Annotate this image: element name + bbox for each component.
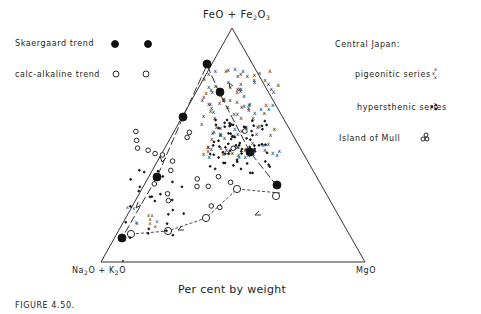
svg-text:x: x (222, 96, 226, 103)
svg-text:x: x (211, 88, 215, 95)
svg-text:x: x (132, 205, 135, 211)
svg-text:x: x (209, 107, 213, 114)
svg-text:x: x (156, 218, 159, 224)
svg-text:x: x (228, 96, 232, 103)
svg-text:x: x (255, 130, 259, 137)
svg-text:x: x (213, 82, 217, 89)
svg-text:x: x (270, 85, 274, 92)
svg-text:x: x (253, 109, 257, 116)
legend-central-japan: Central Japan: (335, 40, 400, 49)
svg-text:x: x (202, 112, 206, 119)
svg-text:x: x (239, 114, 243, 121)
sub: 3 (266, 14, 270, 21)
svg-text:x: x (434, 66, 437, 72)
t: O + K (89, 266, 115, 275)
svg-text:x: x (248, 100, 252, 107)
svg-text:x: x (276, 81, 280, 88)
svg-text:x: x (266, 140, 270, 147)
svg-text:x: x (126, 204, 129, 210)
svg-text:x: x (253, 78, 257, 85)
svg-text:x: x (259, 105, 263, 112)
svg-text:x: x (266, 80, 270, 87)
legend-pigeonitic: pigeonitic series (355, 70, 431, 79)
svg-text:x: x (203, 75, 207, 82)
svg-text:x: x (211, 129, 215, 136)
svg-text:x: x (242, 102, 246, 109)
svg-text:x: x (434, 74, 437, 80)
figure-caption: FIGURE 4.50. (15, 301, 75, 310)
svg-text:x: x (264, 101, 268, 108)
t: O (119, 266, 126, 275)
svg-text:x: x (202, 150, 206, 157)
svg-text:x: x (213, 67, 217, 74)
svg-text:x: x (258, 69, 262, 76)
x-axis-label: Per cent by weight (178, 283, 286, 296)
svg-text:x: x (232, 110, 236, 117)
svg-text:x: x (200, 120, 204, 127)
svg-text:x: x (226, 103, 230, 110)
svg-text:x: x (208, 100, 212, 107)
svg-text:x: x (223, 134, 227, 141)
apex-top-text2: O (258, 9, 266, 20)
svg-text:x: x (257, 122, 261, 129)
svg-text:x: x (247, 151, 251, 158)
svg-text:x: x (207, 83, 211, 90)
svg-text:x: x (201, 96, 205, 103)
svg-text:x: x (247, 106, 251, 113)
svg-text:x: x (268, 67, 272, 74)
apex-left-label: Na2O + K2O (72, 266, 126, 276)
apex-top-text: FeO + Fe (203, 9, 253, 20)
svg-text:x: x (204, 89, 208, 96)
legend-skaergaard: Skaergaard trend (15, 39, 94, 48)
svg-text:x: x (239, 85, 243, 92)
legend-calc-alkaline: calc-alkaline trend (15, 70, 100, 79)
svg-text:x: x (273, 125, 277, 132)
svg-text:x: x (235, 110, 239, 117)
svg-text:x: x (229, 83, 233, 90)
svg-text:x: x (207, 70, 211, 77)
legend-mull: Island of Mull (339, 134, 400, 143)
svg-text:x: x (219, 130, 223, 137)
svg-text:x: x (269, 131, 273, 138)
svg-text:x: x (235, 98, 239, 105)
t: Na (72, 266, 84, 275)
legend-hypersthenic: hypersthenic series (357, 103, 447, 112)
svg-text:x: x (135, 219, 138, 225)
svg-text:x: x (148, 216, 151, 222)
svg-text:x: x (242, 92, 246, 99)
apex-top-label: FeO + Fe2O3 (203, 9, 270, 21)
svg-text:x: x (277, 147, 281, 154)
svg-text:x: x (271, 101, 275, 108)
svg-text:x: x (226, 66, 230, 73)
svg-text:x: x (271, 149, 275, 156)
svg-text:x: x (154, 223, 157, 229)
apex-right-label: MgO (356, 266, 376, 275)
svg-text:x: x (245, 72, 249, 79)
svg-text:x: x (233, 65, 237, 72)
svg-text:x: x (263, 109, 267, 116)
